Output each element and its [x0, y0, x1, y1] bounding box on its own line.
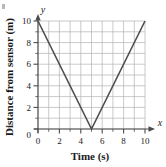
x-axis-variable-label: x: [157, 117, 163, 128]
y-tick-label-0: 0: [27, 130, 32, 140]
x-axis-arrowhead: [149, 126, 156, 131]
y-tick-label-4: 4: [27, 81, 32, 91]
x-axis-title: Time (s): [71, 150, 110, 163]
x-tick-label-2: 2: [57, 136, 62, 146]
x-tick-label-6: 6: [100, 136, 105, 146]
y-tick-label-6: 6: [27, 59, 32, 69]
x-tick-labels: 0 2 4 6 8 10: [36, 136, 150, 146]
y-tick-label-8: 8: [27, 38, 32, 48]
distance-vs-time-chart: y x 0 2 4 6 8 10 0 2 4 6 8 10 Time (s) D…: [0, 0, 166, 167]
x-tick-label-8: 8: [121, 136, 126, 146]
x-tick-label-0: 0: [36, 136, 41, 146]
y-tick-label-10: 10: [22, 16, 32, 26]
y-tick-label-2: 2: [27, 103, 32, 113]
x-tick-label-4: 4: [79, 136, 84, 146]
y-axis-variable-label: y: [40, 4, 46, 15]
y-tick-labels: 0 2 4 6 8 10: [22, 16, 32, 140]
grid-lines: [38, 21, 145, 129]
graph-figure: y x 0 2 4 6 8 10 0 2 4 6 8 10 Time (s) D…: [0, 0, 166, 167]
x-tick-label-10: 10: [141, 136, 151, 146]
y-axis-title: Distance from sensor (m): [3, 18, 16, 136]
